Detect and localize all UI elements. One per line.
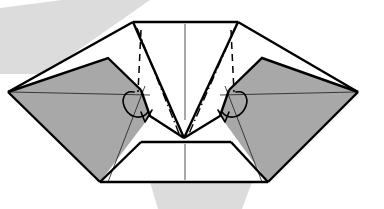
origami-figure-root [0,0,384,209]
origami-diagram-svg [0,0,384,209]
lower-center-shadow [150,182,252,209]
